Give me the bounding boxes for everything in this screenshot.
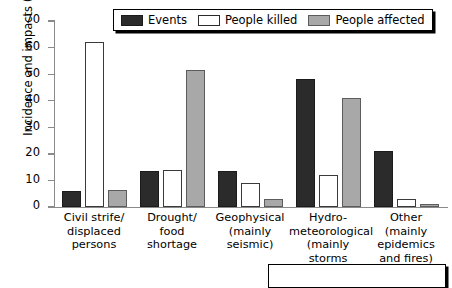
bar-affected <box>342 98 361 207</box>
x-axis-category-line: Drought/ <box>133 211 211 225</box>
y-tick: 50 <box>12 74 48 75</box>
y-tick-mark <box>48 180 54 181</box>
bar-events <box>62 191 81 207</box>
bar-killed <box>163 170 182 207</box>
gray-swatch <box>308 15 330 26</box>
x-axis-category-label: Geophysical(mainlyseismic) <box>211 211 289 252</box>
legend-label: Events <box>148 14 187 26</box>
y-tick: 20 <box>12 153 48 154</box>
bar-killed <box>397 199 416 207</box>
x-axis-category-line: epidemics <box>367 238 445 252</box>
bar-killed <box>241 183 260 207</box>
y-tick-label: 70 <box>14 14 40 26</box>
bar-events <box>296 79 315 207</box>
x-axis-category-line: food <box>133 225 211 239</box>
y-tick: 70 <box>12 20 48 21</box>
y-tick-label: 40 <box>14 94 40 106</box>
bar-affected <box>108 190 127 207</box>
x-axis-category-line: (mainly <box>367 225 445 239</box>
y-tick-mark <box>48 74 54 75</box>
x-axis-category-line: (mainly <box>211 225 289 239</box>
y-tick: 10 <box>12 180 48 181</box>
y-tick-mark <box>48 20 54 21</box>
y-tick-mark <box>48 47 54 48</box>
y-tick: 40 <box>12 100 48 101</box>
x-axis-category-line: Geophysical <box>211 211 289 225</box>
x-axis-category-label: Civil strife/displacedpersons <box>55 211 133 252</box>
y-tick-label: 20 <box>14 147 40 159</box>
bar-events <box>140 171 159 207</box>
x-axis-category-line: (mainly storms <box>289 238 367 265</box>
bar-events <box>374 151 393 207</box>
y-tick-label: 10 <box>14 174 40 186</box>
x-axis-category-line: persons <box>55 238 133 252</box>
bar-affected <box>420 204 439 207</box>
x-axis-category-line: Civil strife/ <box>55 211 133 225</box>
legend-item[interactable]: People killed <box>198 14 297 26</box>
y-tick-label: 60 <box>14 41 40 53</box>
bar-killed <box>85 42 104 207</box>
y-tick-mark <box>48 127 54 128</box>
x-axis-category-line: displaced <box>55 225 133 239</box>
x-axis-category-line: shortage <box>133 238 211 252</box>
x-axis-category-line: Other <box>367 211 445 225</box>
bar-killed <box>319 175 338 207</box>
y-tick: 0 <box>12 206 48 207</box>
y-tick-label: 0 <box>14 200 40 212</box>
y-tick: 30 <box>12 127 48 128</box>
y-tick-mark <box>48 206 54 207</box>
y-tick-label: 50 <box>14 68 40 80</box>
plot-area <box>55 21 445 207</box>
x-axis-category-line: meteorological <box>289 225 367 239</box>
y-tick-label: 30 <box>14 121 40 133</box>
x-axis-category-line: Hydro- <box>289 211 367 225</box>
footer-caption-box <box>268 264 446 288</box>
legend-item[interactable]: People affected <box>308 14 424 26</box>
legend-item[interactable]: Events <box>121 14 187 26</box>
y-tick-mark <box>48 153 54 154</box>
chart-legend: EventsPeople killedPeople affected <box>113 9 433 31</box>
legend-label: People killed <box>225 14 297 26</box>
x-axis-category-label: Drought/foodshortage <box>133 211 211 252</box>
y-tick: 60 <box>12 47 48 48</box>
legend-label: People affected <box>335 14 424 26</box>
white-swatch <box>198 15 220 26</box>
dark-swatch <box>121 15 143 26</box>
x-axis-category-label: Other(mainlyepidemicsand fires) <box>367 211 445 265</box>
x-axis-category-line: seismic) <box>211 238 289 252</box>
bar-affected <box>186 70 205 207</box>
y-tick-mark <box>48 100 54 101</box>
bar-events <box>218 171 237 207</box>
bar-affected <box>264 199 283 207</box>
